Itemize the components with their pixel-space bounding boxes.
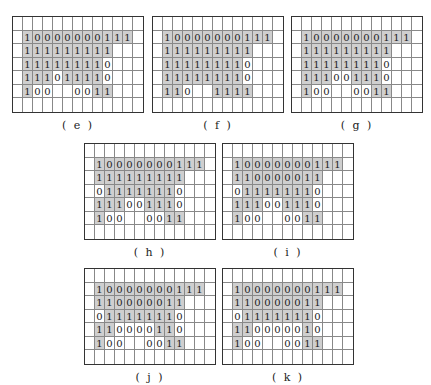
grid-cell [273,212,283,226]
grid-cell [105,225,115,239]
grid-cell [153,31,163,45]
grid-cell: 0 [362,31,372,45]
grid-cell: 1 [312,71,322,85]
grid-cell [63,98,73,112]
grid-cell: 1 [352,71,362,85]
grid-cell [253,225,263,239]
grid-cell: 1 [372,85,382,99]
grid-cell: 1 [303,198,313,212]
grid-cell: 1 [313,158,323,172]
grid-cell [133,31,143,45]
grid-cell [303,225,313,239]
grid-cell [253,269,263,283]
grid-cell [205,171,215,185]
grid-cell: 0 [145,158,155,172]
grid-cell: 1 [145,310,155,324]
grid-cell [115,225,125,239]
grid-cell: 0 [253,158,263,172]
grid-cell: 1 [175,171,185,185]
grid-cell: 0 [293,296,303,310]
grid-cell [145,225,155,239]
grid-cell: 1 [323,158,333,172]
grid-cell: 0 [125,323,135,337]
grid-cell: 1 [115,171,125,185]
grid-cell [343,144,353,158]
grid-cell [195,185,205,199]
grid-cell [292,17,302,31]
grid-cell: 1 [303,296,313,310]
grid-cell: 0 [33,31,43,45]
grid-cell [283,350,293,364]
grid-cell: 0 [313,310,323,324]
grid-cell [343,283,353,297]
grid-cell [273,98,283,112]
grid-cell: 1 [63,44,73,58]
grid-cell: 1 [263,31,273,45]
grid-cell [323,269,333,283]
grid-cell: 0 [155,296,165,310]
grid-cell [185,198,195,212]
grid-cell [333,269,343,283]
grid-cell: 0 [53,71,63,85]
grid-cell: 1 [33,71,43,85]
grid-cell [402,85,412,99]
grid-cell: 1 [372,71,382,85]
grid-cell: 1 [115,198,125,212]
grid-cell [273,350,283,364]
grid-cell [292,71,302,85]
grid-cell [63,85,73,99]
grid-cell [125,350,135,364]
grid-cell [203,85,213,99]
grid-cell: 1 [302,44,312,58]
grid-cell: 1 [95,212,105,226]
grid-cell: 1 [105,171,115,185]
grid-cell: 0 [243,58,253,72]
grid-cell: 1 [323,283,333,297]
grid-cell: 0 [175,198,185,212]
grid-cell: 1 [93,44,103,58]
grid-cell: 0 [175,310,185,324]
grid-cell [135,212,145,226]
grid-cell: 0 [263,171,273,185]
grid-cell [165,144,175,158]
grid-cell [85,144,95,158]
grid-cell [85,198,95,212]
grid-cell [323,323,333,337]
grid-cell: 1 [322,44,332,58]
grid-cell [153,71,163,85]
grid-cell: 1 [313,296,323,310]
grid-cell: 0 [155,337,165,351]
grid-cell [85,350,95,364]
grid-cell: 1 [333,158,343,172]
grid-cell [243,17,253,31]
grid-cell: 0 [115,283,125,297]
grid-cell: 1 [293,185,303,199]
grid-cell [392,58,402,72]
grid-cell [103,98,113,112]
grid-cell [362,17,372,31]
panel-caption: ( j ) [84,371,216,384]
grid-cell [185,310,195,324]
grid-cell: 1 [313,337,323,351]
panel-caption: ( k ) [222,371,354,384]
grid-cell [333,310,343,324]
grid-cell: 1 [93,71,103,85]
grid-cell [193,98,203,112]
grid-cell [273,269,283,283]
grid-cell: 1 [23,58,33,72]
grid-cell: 0 [193,31,203,45]
grid-cell [243,269,253,283]
grid-cell: 1 [382,85,392,99]
grid-cell: 0 [273,158,283,172]
grid-cell: 1 [303,310,313,324]
grid-cell: 0 [253,283,263,297]
grid-cell [85,310,95,324]
grid-cell: 0 [293,158,303,172]
grid-cell [223,296,233,310]
grid-cell [105,269,115,283]
grid-cell [185,144,195,158]
grid-cell [185,185,195,199]
grid-cell [85,158,95,172]
grid-cell [105,144,115,158]
grid-cell [173,17,183,31]
